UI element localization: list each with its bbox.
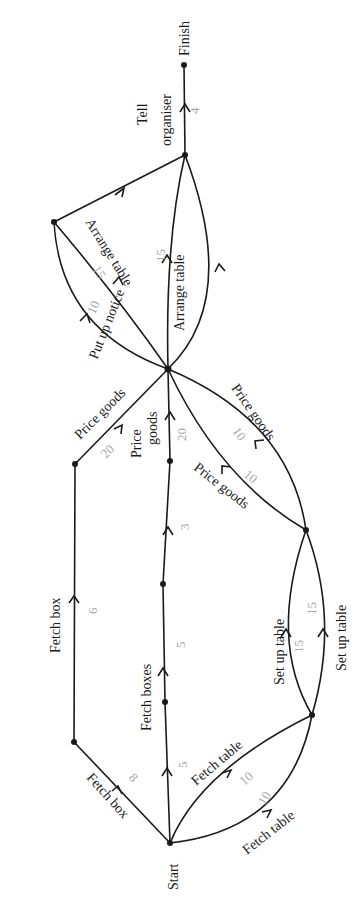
- edge-fetch-boxes-c: [163, 461, 170, 584]
- arrow-icon: [114, 425, 122, 434]
- node-setup-lower: [309, 712, 315, 718]
- finish-label: Finish: [177, 21, 192, 56]
- weight-price-goods-3: 10: [241, 467, 260, 487]
- edge-label-price-goods-1: Price goods: [72, 385, 129, 442]
- activity-network-diagram: Finish Start Tell organiser 4 Put up not…: [0, 0, 359, 914]
- arrow-icon: [215, 264, 225, 272]
- weight-set-up-table-1: 15: [291, 640, 306, 653]
- edge-label-put-up-notice-2: Arrange table: [82, 216, 135, 289]
- arrow-icon: [163, 527, 173, 535]
- arrow-icon: [158, 668, 168, 676]
- node-price-goods-top: [72, 461, 78, 467]
- weight-fetch-box-2: 6: [85, 607, 100, 614]
- edge-label-fetch-table-1: Fetch table: [188, 737, 245, 788]
- edge-label-price-goods-2b: goods: [145, 412, 160, 445]
- edge-fetch-box-2: [74, 464, 75, 742]
- arrow-icon: [255, 440, 264, 449]
- edge-label-fetch-box-2: Fetch box: [48, 597, 63, 653]
- weight-price-goods-2: 20: [174, 428, 189, 441]
- edge-label-tell: Tell: [135, 103, 150, 125]
- weight-fetch-boxes-c: 3: [177, 524, 192, 531]
- nodes: [51, 62, 315, 846]
- edge-label-set-up-table-2: Set up table: [334, 605, 349, 671]
- edge-label-put-up-notice-1: Put up notice: [86, 287, 128, 361]
- weight-fetch-table-2: 10: [255, 789, 274, 808]
- node-chain-1: [162, 699, 168, 705]
- edge-set-up-table-2: [306, 530, 325, 715]
- weight-fetch-box-1: 8: [126, 770, 141, 785]
- node-start: [167, 840, 173, 846]
- node-chain-2: [160, 581, 166, 587]
- edge-tell-organiser: [184, 65, 185, 155]
- weight-set-up-table-2: 15: [304, 602, 319, 615]
- edge-label-fetch-boxes: Fetch boxes: [139, 664, 154, 731]
- start-label: Start: [166, 863, 181, 890]
- edge-dummy-notice: [54, 155, 185, 222]
- edge-label-organiser: organiser: [159, 94, 174, 146]
- weight-fetch-boxes-b: 5: [173, 642, 188, 649]
- weight-put-up-notice-2: 15: [89, 263, 109, 282]
- node-tell: [182, 152, 188, 158]
- arrow-icon: [165, 412, 175, 420]
- edge-label-set-up-table-1: Set up table: [272, 619, 287, 685]
- weight-price-goods-4: 10: [230, 424, 250, 443]
- edge-fetch-boxes-b: [163, 584, 165, 702]
- node-hub: [165, 366, 172, 373]
- node-finish: [181, 62, 187, 68]
- weight-tell: 4: [187, 107, 202, 114]
- node-fetch-box: [71, 739, 77, 745]
- weight-fetch-table-1: 10: [236, 768, 256, 788]
- weight-fetch-boxes-a: 5: [175, 762, 190, 769]
- arrow-icon: [262, 810, 271, 818]
- arrow-icon: [318, 629, 328, 637]
- weight-arrange-table-1: 15: [153, 249, 168, 262]
- node-notice: [51, 219, 57, 225]
- weight-price-goods-1: 20: [98, 441, 118, 461]
- edge-set-up-table-1: [288, 530, 312, 715]
- arrow-icon: [222, 466, 231, 474]
- edge-label-arrange-table-1: Arrange table: [172, 254, 187, 331]
- edge-label-price-goods-2a: Price: [129, 429, 144, 458]
- node-chain-3: [167, 458, 173, 464]
- node-right-hub: [303, 527, 309, 533]
